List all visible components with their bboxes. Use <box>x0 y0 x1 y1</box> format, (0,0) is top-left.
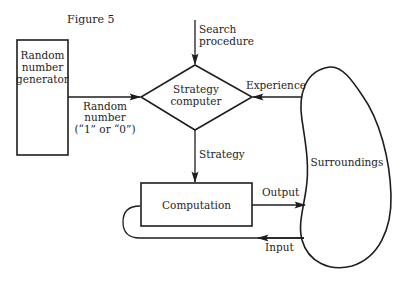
strategy-computer-diamond: Strategy computer <box>141 65 252 130</box>
random-generator-label-2: number <box>22 61 64 73</box>
input-edge: Input <box>123 206 304 253</box>
experience-edge: Experience <box>246 79 306 97</box>
computation-label: Computation <box>162 199 231 211</box>
output-edge: Output <box>252 186 305 205</box>
experience-label: Experience <box>246 79 306 91</box>
random-number-edge: Random number (“1” or “0”) <box>68 97 140 135</box>
figure-title: Figure 5 <box>67 13 115 26</box>
surroundings-label: Surroundings <box>311 156 384 168</box>
computation-box: Computation <box>141 183 252 226</box>
strategy-label: Strategy <box>199 148 245 160</box>
strategy-computer-label-1: Strategy <box>173 83 219 95</box>
output-label: Output <box>262 186 300 198</box>
surroundings-shape: Surroundings <box>301 67 392 268</box>
random-number-label-2: number <box>84 111 126 123</box>
random-generator-label-3: generator <box>16 73 70 85</box>
diagram-canvas: Figure 5 Random number generator Random … <box>0 0 408 285</box>
search-procedure-label-1: Search <box>199 23 237 35</box>
strategy-computer-label-2: computer <box>170 95 222 107</box>
input-label: Input <box>265 241 294 253</box>
random-number-label-3: (“1” or “0”) <box>74 123 135 135</box>
random-number-generator-box: Random number generator <box>16 40 70 155</box>
search-procedure-edge: Search procedure <box>195 20 254 64</box>
strategy-edge: Strategy <box>195 130 245 182</box>
search-procedure-label-2: procedure <box>199 35 254 47</box>
random-generator-label-1: Random <box>20 49 64 61</box>
